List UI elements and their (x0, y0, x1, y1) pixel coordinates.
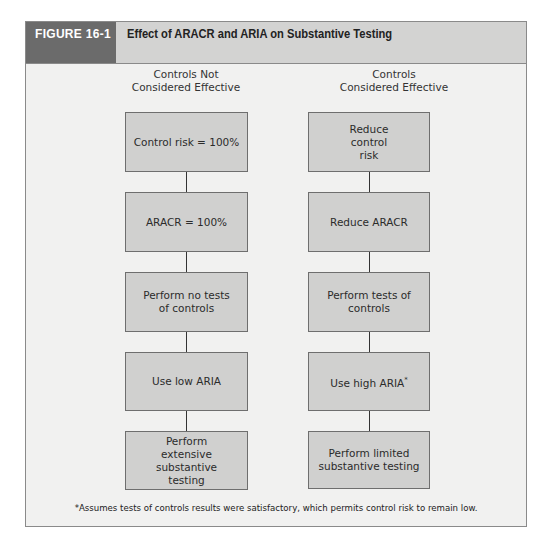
connector-line (186, 252, 187, 272)
box-label: Reduce ARACR (330, 216, 408, 229)
flow-box-reduce-aracr: Reduce ARACR (308, 192, 430, 252)
box-label-text: Use high ARIA (330, 377, 404, 389)
heading-line: Controls Not (116, 68, 256, 81)
heading-line: Controls (324, 68, 464, 81)
flow-box-limited-substantive-testing: Perform limited substantive testing (308, 431, 430, 489)
column-heading-not-effective: Controls Not Considered Effective (116, 68, 256, 94)
figure-header: FIGURE 16-1 Effect of ARACR and ARIA on … (26, 22, 526, 64)
figure-frame: FIGURE 16-1 Effect of ARACR and ARIA on … (25, 21, 527, 527)
figure-label: FIGURE 16-1 (26, 22, 116, 63)
connector-line (186, 411, 187, 431)
box-label: Perform limited substantive testing (313, 447, 425, 473)
connector-line (369, 411, 370, 431)
flow-box-high-aria: Use high ARIA* (308, 352, 430, 411)
flow-box-reduce-control-risk: Reduce control risk (308, 112, 430, 172)
box-label: Control risk = 100% (134, 136, 240, 149)
box-label: ARACR = 100% (146, 216, 227, 229)
column-heading-effective: Controls Considered Effective (324, 68, 464, 94)
heading-line: Considered Effective (116, 81, 256, 94)
flow-box-low-aria: Use low ARIA (125, 352, 248, 411)
box-label: Perform tests of controls (323, 289, 415, 315)
box-label: Use low ARIA (152, 375, 221, 388)
flow-box-extensive-substantive-testing: Perform extensive substantive testing (125, 431, 248, 490)
flow-box-aracr-100: ARACR = 100% (125, 192, 248, 252)
heading-line: Considered Effective (324, 81, 464, 94)
flow-box-control-risk-100: Control risk = 100% (125, 112, 248, 172)
flow-box-perform-tests-of-controls: Perform tests of controls (308, 272, 430, 332)
footnote: *Assumes tests of controls results were … (26, 503, 526, 513)
connector-line (186, 332, 187, 352)
flow-box-no-tests-of-controls: Perform no tests of controls (125, 272, 248, 332)
connector-line (186, 172, 187, 192)
box-label: Use high ARIA* (330, 374, 407, 390)
connector-line (369, 172, 370, 192)
box-label: Reduce control risk (345, 123, 393, 162)
connector-line (369, 332, 370, 352)
connector-line (369, 252, 370, 272)
box-label: Perform extensive substantive testing (154, 435, 219, 487)
figure-title: Effect of ARACR and ARIA on Substantive … (127, 27, 392, 41)
box-label: Perform no tests of controls (140, 289, 233, 315)
footnote-marker: * (404, 376, 408, 384)
